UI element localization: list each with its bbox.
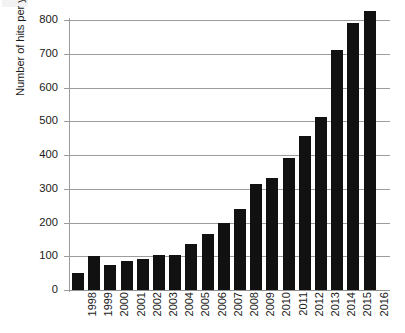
y-axis-tick-label: 500	[24, 115, 58, 126]
bar	[153, 255, 165, 290]
y-axis-tick-label: 300	[24, 183, 58, 194]
y-axis-tick-label: 700	[24, 48, 58, 59]
bar	[218, 223, 230, 291]
y-axis-tick-label: 100	[24, 250, 58, 261]
bar	[347, 23, 359, 290]
y-axis-tick-label: 400	[24, 149, 58, 160]
bar	[315, 117, 327, 290]
bar	[137, 259, 149, 290]
x-axis-tick-label: 2005	[198, 292, 212, 332]
bar	[185, 244, 197, 290]
x-axis-tick-label: 1998	[85, 292, 99, 332]
x-axis-tick-label: 2003	[166, 292, 180, 332]
y-axis-tick-label: 600	[24, 82, 58, 93]
bar	[202, 234, 214, 290]
x-axis-tick-label: 2016	[377, 292, 391, 332]
y-axis-tick-labels: 0100200300400500600700800	[20, 0, 58, 333]
x-axis-tick-label: 2010	[279, 292, 293, 332]
y-axis-tick-label: 0	[24, 284, 58, 295]
x-axis-tick-label: 2012	[312, 292, 326, 332]
y-axis-tick-label: 200	[24, 217, 58, 228]
bar-series	[70, 20, 390, 290]
bar-chart: Number of hits per year 0100200300400500…	[0, 0, 405, 333]
x-axis-tick-label: 2014	[344, 292, 358, 332]
x-axis-tick-label: 2015	[360, 292, 374, 332]
x-axis-tick-labels: 1998199920002001200220032004200520062007…	[70, 292, 390, 333]
x-axis-tick-label: 2013	[328, 292, 342, 332]
x-axis-tick-label: 2000	[117, 292, 131, 332]
plot-area	[70, 20, 390, 290]
x-axis-tick-label: 2004	[182, 292, 196, 332]
bar	[72, 273, 84, 290]
x-axis-tick-label: 2009	[263, 292, 277, 332]
x-axis-tick-label: 2006	[215, 292, 229, 332]
x-axis-tick-label: 2011	[296, 292, 310, 332]
bar	[234, 209, 246, 290]
bar	[121, 261, 133, 290]
bar	[283, 158, 295, 290]
bar	[104, 265, 116, 290]
x-axis-tick-label: 1999	[101, 292, 115, 332]
x-axis-tick-label: 2002	[150, 292, 164, 332]
bar	[331, 50, 343, 290]
bar	[364, 11, 376, 290]
bar	[169, 255, 181, 290]
y-axis-tick-label: 800	[24, 14, 58, 25]
bar	[299, 136, 311, 290]
x-axis-tick-label: 2008	[247, 292, 261, 332]
bar	[88, 256, 100, 290]
x-axis-tick-label: 2007	[231, 292, 245, 332]
gridline	[70, 290, 390, 291]
bar	[266, 178, 278, 290]
bar	[250, 184, 262, 290]
x-axis-tick-label: 2001	[134, 292, 148, 332]
